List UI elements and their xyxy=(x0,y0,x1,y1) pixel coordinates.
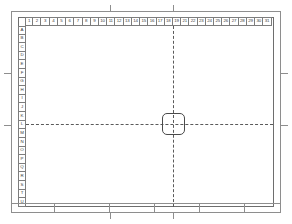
column-ruler-label: 8 xyxy=(85,19,87,23)
row-ruler-label: S xyxy=(21,183,24,187)
row-ruler-cell-N[interactable]: N xyxy=(18,138,26,147)
row-ruler-label: N xyxy=(20,140,23,144)
column-ruler-label: 3 xyxy=(44,19,46,23)
column-ruler-cell-27[interactable]: 27 xyxy=(230,17,238,26)
column-ruler-label: 31 xyxy=(265,19,269,23)
title-block-cell-5[interactable] xyxy=(200,204,245,213)
column-ruler-cell-19[interactable]: 19 xyxy=(173,17,181,26)
title-block-strip[interactable] xyxy=(11,203,281,213)
column-ruler-cell-8[interactable]: 8 xyxy=(83,17,91,26)
row-ruler-cell-C[interactable]: C xyxy=(18,43,26,52)
column-ruler-label: 13 xyxy=(125,19,129,23)
title-block-cell-3[interactable] xyxy=(110,204,155,213)
column-ruler-label: 28 xyxy=(240,19,244,23)
column-ruler-cell-21[interactable]: 21 xyxy=(181,17,189,26)
column-ruler-label: 2 xyxy=(36,19,38,23)
column-ruler-label: 26 xyxy=(224,19,228,23)
column-ruler-cell-23[interactable]: 23 xyxy=(198,17,206,26)
edge-tick-right-1 xyxy=(280,73,288,74)
row-ruler-label: T xyxy=(21,191,24,195)
column-ruler-label: 1 xyxy=(28,19,30,23)
column-ruler-cell-17[interactable]: 17 xyxy=(157,17,165,26)
title-block-cell-1[interactable] xyxy=(11,204,55,213)
column-ruler-cell-4[interactable]: 4 xyxy=(50,17,58,26)
column-ruler-cell-7[interactable]: 7 xyxy=(74,17,82,26)
row-ruler-cell-I[interactable]: I xyxy=(18,95,26,104)
column-ruler-cell-31[interactable]: 31 xyxy=(263,17,271,26)
title-block-cell-2[interactable] xyxy=(55,204,110,213)
edge-tick-left-1 xyxy=(4,73,12,74)
row-ruler-cell-R[interactable]: R xyxy=(18,172,26,181)
column-ruler-cell-10[interactable]: 10 xyxy=(99,17,107,26)
column-ruler-label: 18 xyxy=(166,19,170,23)
column-ruler-label: 15 xyxy=(141,19,145,23)
column-ruler-cell-13[interactable]: 13 xyxy=(124,17,132,26)
column-ruler-cell-29[interactable]: 29 xyxy=(247,17,255,26)
column-ruler-cell-22[interactable]: 22 xyxy=(189,17,197,26)
column-ruler-cell-12[interactable]: 12 xyxy=(115,17,123,26)
column-ruler-cell-24[interactable]: 24 xyxy=(206,17,214,26)
column-ruler-cell-15[interactable]: 15 xyxy=(140,17,148,26)
column-ruler-label: 11 xyxy=(109,19,113,23)
row-ruler-cell-L[interactable]: L xyxy=(18,121,26,130)
row-ruler-cell-T[interactable]: T xyxy=(18,190,26,199)
title-block-cell-6[interactable] xyxy=(245,204,281,213)
row-ruler-label: I xyxy=(21,96,22,100)
column-ruler-label: 19 xyxy=(174,19,178,23)
row-ruler-label: D xyxy=(20,53,23,57)
column-ruler-label: 29 xyxy=(248,19,252,23)
column-ruler-cell-6[interactable]: 6 xyxy=(66,17,74,26)
column-ruler-label: 7 xyxy=(77,19,79,23)
column-ruler-cell-9[interactable]: 9 xyxy=(91,17,99,26)
column-ruler-cell-1[interactable]: 1 xyxy=(25,17,33,26)
column-ruler-label: 21 xyxy=(183,19,187,23)
column-ruler-label: 17 xyxy=(158,19,162,23)
column-ruler-label: 23 xyxy=(199,19,203,23)
row-ruler-cell-E[interactable]: E xyxy=(18,60,26,69)
row-ruler-cell-K[interactable]: K xyxy=(18,112,26,121)
column-ruler[interactable]: 1234567891011121314151617181921222324252… xyxy=(25,17,272,26)
column-ruler-cell-14[interactable]: 14 xyxy=(132,17,140,26)
edge-tick-left-2 xyxy=(4,125,12,126)
column-ruler-cell-16[interactable]: 16 xyxy=(148,17,156,26)
drawing-canvas[interactable] xyxy=(26,26,273,207)
row-ruler-cell-B[interactable]: B xyxy=(18,35,26,44)
edge-tick-right-2 xyxy=(280,125,288,126)
column-ruler-cell-2[interactable]: 2 xyxy=(33,17,41,26)
title-block-cell-4[interactable] xyxy=(155,204,200,213)
column-ruler-cell-3[interactable]: 3 xyxy=(41,17,49,26)
row-ruler-label: G xyxy=(20,79,23,83)
row-ruler-label: F xyxy=(21,71,24,75)
row-ruler-cell-J[interactable]: J xyxy=(18,103,26,112)
column-ruler-cell-5[interactable]: 5 xyxy=(58,17,66,26)
row-ruler-cell-Q[interactable]: Q xyxy=(18,164,26,173)
column-ruler-label: 9 xyxy=(93,19,95,23)
row-ruler-label: O xyxy=(20,148,23,152)
column-ruler-label: 25 xyxy=(215,19,219,23)
column-ruler-label: 14 xyxy=(133,19,137,23)
row-ruler-cell-F[interactable]: F xyxy=(18,69,26,78)
column-ruler-cell-11[interactable]: 11 xyxy=(107,17,115,26)
column-ruler-cell-30[interactable]: 30 xyxy=(255,17,263,26)
row-ruler-cell-A[interactable]: A xyxy=(18,26,26,35)
column-ruler-cell-26[interactable]: 26 xyxy=(222,17,230,26)
row-ruler-label: H xyxy=(20,88,23,92)
horizontal-centerline xyxy=(26,124,273,125)
column-ruler-cell-25[interactable]: 25 xyxy=(214,17,222,26)
row-ruler-cell-O[interactable]: O xyxy=(18,147,26,156)
row-ruler-cell-G[interactable]: G xyxy=(18,78,26,87)
row-ruler-cell-H[interactable]: H xyxy=(18,86,26,95)
row-ruler[interactable]: ABCDEFGHIJKLMNOPQRSTU xyxy=(18,26,26,207)
row-ruler-label: L xyxy=(21,122,23,126)
column-ruler-label: 27 xyxy=(232,19,236,23)
row-ruler-cell-S[interactable]: S xyxy=(18,181,26,190)
column-ruler-cell-18[interactable]: 18 xyxy=(165,17,173,26)
row-ruler-cell-D[interactable]: D xyxy=(18,52,26,61)
edge-tick-bottom-1 xyxy=(110,212,111,219)
row-ruler-label: R xyxy=(20,174,23,178)
column-ruler-cell-28[interactable]: 28 xyxy=(239,17,247,26)
row-ruler-cell-P[interactable]: P xyxy=(18,155,26,164)
column-ruler-label: 12 xyxy=(117,19,121,23)
row-ruler-cell-M[interactable]: M xyxy=(18,129,26,138)
rounded-square-part[interactable] xyxy=(162,113,185,135)
